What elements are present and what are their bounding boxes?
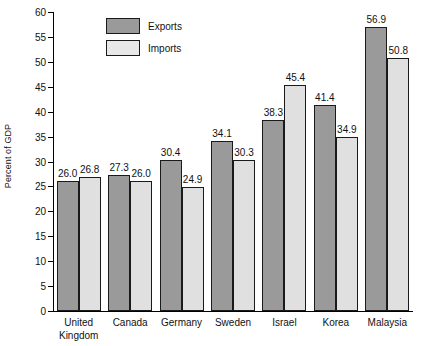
x-axis-line [53, 311, 413, 312]
y-axis-tick-label: 50 [35, 56, 46, 67]
bar-chart: Percent of GDP 0510152025303540455055602… [0, 0, 421, 346]
y-axis-tick-label: 45 [35, 81, 46, 92]
bar-value-label: 30.4 [161, 147, 180, 158]
bar-imports [387, 58, 409, 311]
x-axis-category-label: Korea [323, 316, 350, 329]
bar-value-label: 45.4 [286, 72, 305, 83]
y-axis-tick-label: 5 [40, 281, 46, 292]
y-axis-tick-mark [48, 162, 53, 163]
bar-value-label: 30.3 [234, 147, 253, 158]
bar-exports [160, 160, 182, 311]
y-axis-tick-mark [48, 286, 53, 287]
bar-imports [284, 85, 306, 311]
bar-exports [365, 27, 387, 311]
y-axis-title-text: Percent of GDP [3, 123, 13, 187]
x-axis-category-label: Sweden [215, 316, 251, 329]
y-axis-tick-mark [48, 12, 53, 13]
y-axis-tick-mark [48, 186, 53, 187]
y-axis-tick-label: 40 [35, 106, 46, 117]
bar-exports [108, 175, 130, 311]
y-axis-tick-mark [48, 261, 53, 262]
y-axis-tick-mark [48, 311, 53, 312]
bar-value-label: 38.3 [264, 107, 283, 118]
y-axis-tick-label: 10 [35, 256, 46, 267]
y-axis-tick-mark [48, 87, 53, 88]
y-axis-tick-label: 30 [35, 156, 46, 167]
bar-exports [314, 105, 336, 311]
bar-value-label: 34.9 [337, 124, 356, 135]
x-axis-category-label: Israel [272, 316, 296, 329]
y-axis-title: Percent of GDP [0, 0, 16, 311]
bar-value-label: 24.9 [183, 174, 202, 185]
y-axis-tick-label: 25 [35, 181, 46, 192]
y-axis-tick-mark [48, 37, 53, 38]
y-axis-tick-label: 60 [35, 7, 46, 18]
legend-swatch-exports [106, 18, 140, 34]
bar-value-label: 26.0 [131, 168, 150, 179]
y-axis-tick-label: 35 [35, 131, 46, 142]
y-axis-tick-mark [48, 236, 53, 237]
bar-value-label: 26.0 [58, 168, 77, 179]
y-axis-tick-label: 0 [40, 306, 46, 317]
bar-value-label: 27.3 [109, 162, 128, 173]
legend-swatch-imports [106, 40, 140, 56]
bar-imports [336, 137, 358, 311]
x-axis-category-label: Malaysia [368, 316, 407, 329]
x-axis-category-label: Germany [161, 316, 202, 329]
y-axis-tick-mark [48, 62, 53, 63]
bar-value-label: 41.4 [315, 92, 334, 103]
y-axis-tick-label: 15 [35, 231, 46, 242]
y-axis-tick-mark [48, 211, 53, 212]
legend-label: Imports [148, 43, 181, 54]
x-axis-category-label: Canada [113, 316, 148, 329]
legend-item: Imports [106, 40, 182, 56]
bar-imports [130, 181, 152, 311]
legend-label: Exports [148, 21, 182, 32]
bar-imports [182, 187, 204, 311]
bar-exports [262, 120, 284, 311]
x-axis-category-label: UnitedKingdom [59, 316, 98, 342]
y-axis-tick-mark [48, 112, 53, 113]
bar-exports [211, 141, 233, 311]
legend-item: Exports [106, 18, 182, 34]
bar-imports [79, 177, 101, 311]
y-axis-tick-mark [48, 137, 53, 138]
bar-imports [233, 160, 255, 311]
y-axis-tick-label: 55 [35, 31, 46, 42]
bar-value-label: 50.8 [389, 45, 408, 56]
bar-exports [57, 181, 79, 311]
y-axis-tick-label: 20 [35, 206, 46, 217]
chart-legend: ExportsImports [106, 18, 182, 62]
bar-value-label: 34.1 [212, 128, 231, 139]
bar-value-label: 56.9 [367, 14, 386, 25]
bar-value-label: 26.8 [80, 164, 99, 175]
